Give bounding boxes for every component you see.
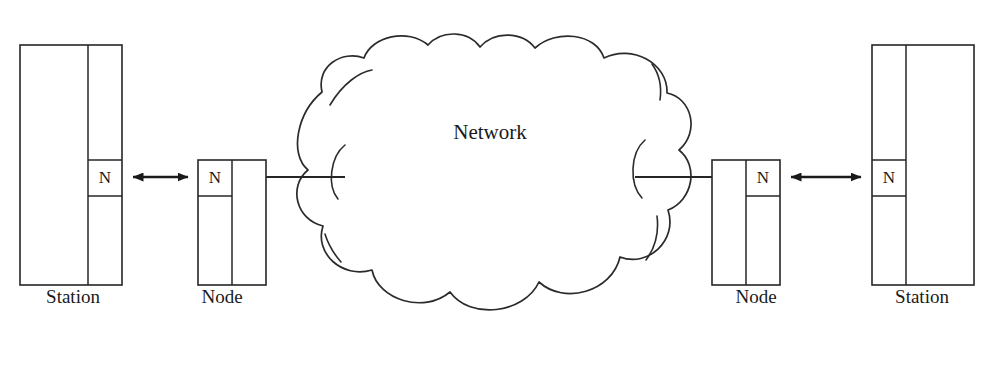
station-left-cell-label: N xyxy=(99,168,111,187)
network-label: Network xyxy=(453,120,527,144)
diagram-svg-surface: Network N Station N Node xyxy=(0,0,999,365)
station-right-group[interactable]: N Station xyxy=(872,45,974,307)
station-left-box[interactable] xyxy=(20,45,122,285)
node-left-cell-label: N xyxy=(209,168,221,187)
node-right-group[interactable]: N Node xyxy=(712,160,780,307)
network-diagram-canvas: Network N Station N Node xyxy=(0,0,999,365)
station-left-group[interactable]: N Station xyxy=(20,45,122,307)
network-cloud: Network xyxy=(297,34,691,310)
station-right-caption: Station xyxy=(895,286,949,307)
cloud-outline xyxy=(297,34,691,310)
station-right-box[interactable] xyxy=(872,45,974,285)
node-left-group[interactable]: N Node xyxy=(198,160,266,307)
station-right-cell-label: N xyxy=(883,168,895,187)
station-left-caption: Station xyxy=(46,286,100,307)
node-right-cell-label: N xyxy=(757,168,769,187)
node-right-caption: Node xyxy=(735,286,776,307)
node-left-caption: Node xyxy=(201,286,242,307)
